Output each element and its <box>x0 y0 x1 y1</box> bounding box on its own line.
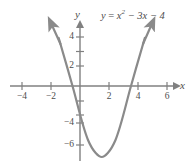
y-axis-label: y <box>75 9 80 20</box>
equation-lhs: y <box>101 10 106 21</box>
x-tick-label-6: 6 <box>161 92 173 102</box>
x-tick-label-4: 4 <box>132 92 144 102</box>
graph-figure: y x −4 −2 2 4 6 4 2 −4 −6 y = x2 − 3x − … <box>0 0 190 167</box>
y-tick-label-2: 2 <box>62 61 74 71</box>
equation-exponent: 2 <box>122 8 126 16</box>
y-tick-label-4: 4 <box>62 32 74 42</box>
x-axis-label: x <box>180 80 185 91</box>
y-tick-label--6: −6 <box>56 140 74 150</box>
right-arm-arrowhead <box>143 27 151 44</box>
equation-constant-term: − 4 <box>150 10 165 21</box>
left-arm-arrowhead <box>53 27 61 44</box>
equation-equals: = <box>108 10 114 21</box>
x-tick-label--2: −2 <box>43 92 59 102</box>
y-tick-label--4: −4 <box>56 118 74 128</box>
equation-linear-term: − 3x <box>128 10 148 21</box>
equation-annotation: y = x2 − 3x − 4 <box>101 9 165 21</box>
coordinate-plane-svg <box>0 0 190 167</box>
x-tick-label-2: 2 <box>103 92 115 102</box>
x-tick-label--4: −4 <box>14 92 30 102</box>
